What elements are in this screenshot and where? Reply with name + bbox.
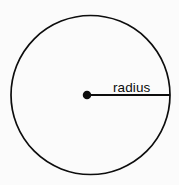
center-point-dot [83,91,92,100]
diagram-canvas: radius [0,0,179,185]
radius-label: radius [113,80,151,95]
circle-radius-diagram: radius [0,0,179,185]
